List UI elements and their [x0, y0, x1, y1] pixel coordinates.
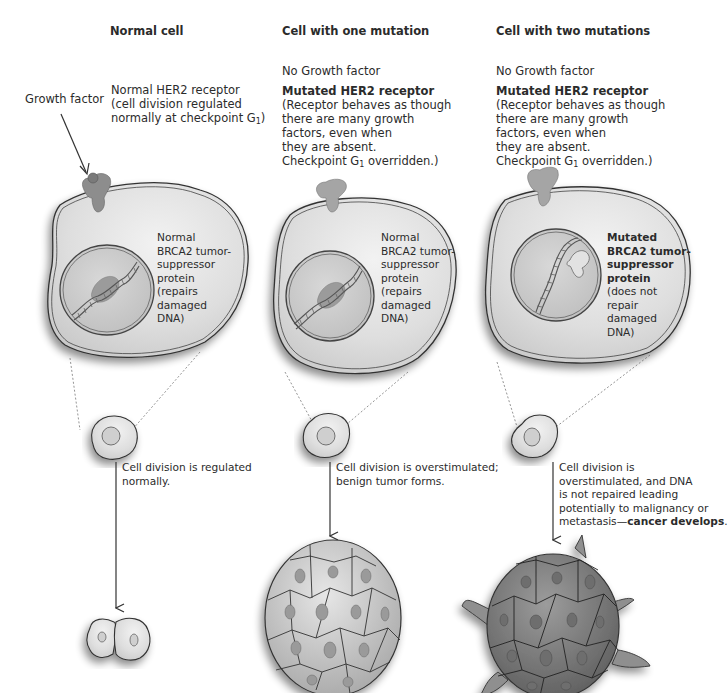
outcome-one-mutation: Cell division is overstimulated; benign …	[336, 461, 499, 488]
zoom-lines-cell-1	[70, 352, 200, 430]
zoom-lines-cell-3	[497, 355, 650, 430]
normal-brca2-label-2: Normal BRCA2 tumor- suppressor protein (…	[381, 231, 455, 326]
small-cell-3	[511, 415, 557, 458]
no-growth-factor-label-2: No Growth factor	[496, 64, 594, 78]
mutated-brca2-label: Mutated BRCA2 tumor- suppressor protein …	[607, 231, 691, 339]
malignant-tumor	[462, 535, 650, 693]
mutated-her2-receptor-label-2: Mutated HER2 receptor	[496, 84, 648, 98]
column-title-normal: Normal cell	[110, 24, 183, 38]
normal-brca2-label-1: Normal BRCA2 tumor- suppressor protein (…	[157, 231, 231, 326]
small-cell-1	[92, 416, 138, 459]
mutated-her2-desc-2: (Receptor behaves as though there are ma…	[496, 98, 665, 168]
no-growth-factor-label-1: No Growth factor	[282, 64, 380, 78]
mutated-her2-receptor-label-1: Mutated HER2 receptor	[282, 84, 434, 98]
daughter-cells	[87, 618, 150, 660]
growth-factor-label: Growth factor	[25, 92, 104, 106]
cancer-develops-emphasis: cancer develops	[627, 515, 724, 527]
column-title-two-mutations: Cell with two mutations	[496, 24, 650, 38]
benign-tumor	[265, 540, 401, 693]
outcome-normal: Cell division is regulated normally.	[122, 461, 252, 488]
small-cell-2	[303, 414, 349, 458]
mutated-her2-desc-1: (Receptor behaves as though there are ma…	[282, 98, 451, 168]
normal-her2-receptor-label: Normal HER2 receptor	[111, 83, 240, 97]
normal-her2-desc-line-1: (cell division regulated	[111, 97, 242, 111]
normal-her2-desc-line-2: normally at checkpoint G1)	[111, 111, 265, 125]
column-title-one-mutation: Cell with one mutation	[282, 24, 429, 38]
outcome-two-mutations: Cell division is overstimulated, and DNA…	[559, 461, 728, 529]
growth-factor-arrow	[61, 114, 89, 174]
